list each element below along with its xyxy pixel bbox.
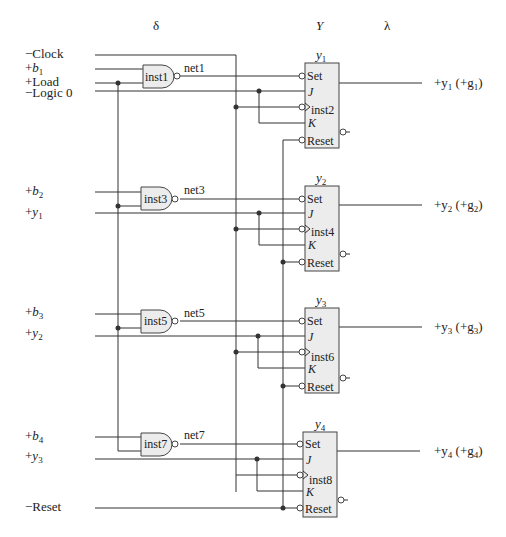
- net1-label: net1: [184, 61, 205, 75]
- net7-label: net7: [184, 428, 205, 442]
- nand-gate-inst5: inst5 net5: [141, 306, 205, 333]
- nand-gate-inst1: inst1 net1: [143, 61, 205, 88]
- svg-text:Reset: Reset: [307, 256, 334, 270]
- nand-gate-inst3: inst3 net3: [141, 183, 205, 210]
- input-b4-label: +b4: [25, 428, 44, 445]
- svg-text:K: K: [307, 362, 317, 376]
- shift-register-circuit-diagram: δ Y λ −Clock +b1 +Load −Logic 0 +b2 +y1 …: [0, 0, 506, 537]
- svg-text:inst4: inst4: [311, 225, 334, 239]
- svg-text:inst5: inst5: [144, 314, 167, 328]
- svg-text:J: J: [308, 207, 314, 221]
- svg-text:Reset: Reset: [307, 380, 334, 394]
- input-reset-label: −Reset: [25, 499, 62, 514]
- header-Y: Y: [316, 18, 325, 33]
- input-b3-label: +b3: [25, 304, 44, 321]
- input-y1-label: +y1: [25, 204, 43, 221]
- svg-text:J: J: [308, 85, 314, 99]
- input-y2-label: +y2: [25, 325, 43, 342]
- output-y2-label: +y2 (+g2): [434, 197, 483, 214]
- nand-gate-inst7: inst7 net7: [141, 428, 205, 456]
- clock-wire: [95, 55, 236, 492]
- jk-flipflop-y3: y3 Set J inst6 K Reset: [299, 292, 350, 394]
- svg-text:inst7: inst7: [144, 437, 167, 451]
- input-y3-label: +y3: [25, 448, 43, 465]
- jk-flipflop-y1: y1 Set J inst2 K Reset: [299, 47, 350, 148]
- svg-text:y4: y4: [313, 416, 326, 433]
- jk-flipflop-y4: y4 Set J inst8 K Reset: [297, 416, 348, 517]
- header-delta: δ: [153, 18, 159, 33]
- output-y3-label: +y3 (+g3): [434, 319, 483, 336]
- svg-text:K: K: [307, 116, 317, 130]
- svg-text:Set: Set: [307, 314, 323, 328]
- input-logic0-label: −Logic 0: [25, 85, 72, 100]
- header-lambda: λ: [384, 18, 391, 33]
- load-bus: [118, 83, 141, 451]
- svg-text:Set: Set: [307, 192, 323, 206]
- svg-text:J: J: [308, 330, 314, 344]
- svg-text:Reset: Reset: [305, 502, 332, 516]
- output-y1-label: +y1 (+g1): [434, 75, 483, 92]
- svg-text:inst3: inst3: [144, 192, 167, 206]
- svg-text:inst2: inst2: [311, 103, 334, 117]
- svg-text:inst1: inst1: [145, 70, 168, 84]
- jk-flipflop-y2: y2 Set J inst4 K Reset: [299, 170, 350, 271]
- svg-text:K: K: [307, 238, 317, 252]
- svg-text:K: K: [305, 485, 315, 499]
- output-y4-label: +y4 (+g4): [434, 443, 483, 460]
- net3-label: net3: [184, 183, 205, 197]
- input-clock-label: −Clock: [25, 46, 64, 61]
- svg-text:Reset: Reset: [307, 134, 334, 148]
- net5-label: net5: [184, 306, 205, 320]
- svg-text:Set: Set: [305, 437, 321, 451]
- svg-text:y3: y3: [314, 292, 327, 309]
- input-b2-label: +b2: [25, 183, 43, 200]
- svg-text:y1: y1: [314, 47, 326, 64]
- svg-text:J: J: [306, 453, 312, 467]
- svg-text:Set: Set: [307, 69, 323, 83]
- svg-text:y2: y2: [314, 170, 326, 187]
